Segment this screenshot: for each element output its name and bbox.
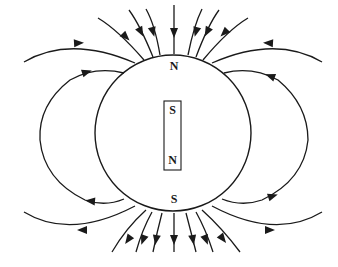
magnetic-field-diagram: S N N S [0, 0, 338, 267]
arrow-top-4 [170, 28, 178, 38]
arrow-right-inner-top [264, 71, 276, 82]
field-line-top-1 [98, 18, 144, 60]
arrow-top-2 [135, 26, 147, 39]
bottom-field-lines [112, 210, 240, 252]
field-loop-right-outer-bottom [212, 206, 322, 225]
field-loop-left-outer-bottom [24, 206, 135, 225]
field-line-bottom-5 [186, 213, 196, 252]
arrow-right-inner-bottom [267, 191, 279, 202]
arrow-bottom-5 [188, 234, 198, 245]
bar-magnet-bottom-pole-label: N [168, 153, 177, 167]
field-loop-left-outer-top [24, 49, 135, 63]
globe-north-label: N [170, 59, 179, 73]
field-loop-right-inner [222, 71, 308, 204]
arrow-right-outer-bottom [265, 226, 275, 234]
field-loop-left-inner [40, 71, 124, 204]
right-field-loops [212, 39, 322, 234]
arrow-top-6 [201, 26, 213, 39]
arrow-bottom-7 [217, 233, 229, 246]
left-field-loops [24, 39, 135, 234]
field-line-bottom-1 [112, 210, 146, 252]
globe-south-label: S [171, 192, 178, 206]
arrow-bottom-1 [122, 234, 134, 247]
arrow-left-outer-top [74, 39, 85, 48]
bar-magnet-top-pole-label: S [169, 103, 176, 117]
arrow-left-outer-bottom [77, 226, 87, 234]
arrow-bottom-3 [151, 234, 161, 245]
field-line-bottom-3 [153, 213, 162, 252]
arrow-right-outer-top [263, 39, 274, 48]
arrow-left-inner-bottom [85, 197, 96, 206]
arrow-bottom-4 [170, 235, 178, 245]
field-loop-right-outer-top [212, 49, 322, 63]
top-field-lines [98, 5, 248, 60]
